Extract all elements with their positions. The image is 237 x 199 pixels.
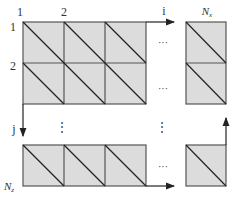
right-column-top-cells [186,22,226,104]
bottom-row-cell-block [23,145,146,186]
ellipsis-row-2: ··· [158,83,168,94]
last-column-label: Nx [201,5,213,19]
bottom-right-cell [186,145,226,186]
row-label-1: 1 [10,20,16,34]
vertical-ellipsis-left: ⋮ [56,120,68,134]
ellipsis-row-1: ··· [158,37,168,48]
column-label-2: 2 [61,5,67,19]
last-row-label: Nz [3,180,14,194]
mesh-grid-diagram: 1 2 1 2 i j Nx Nz ··· ··· ··· ⋮ ⋮ [0,0,237,199]
column-label-1: 1 [17,5,23,19]
vertical-ellipsis-right: ⋮ [156,120,168,134]
ellipsis-bottom-row: ··· [158,161,168,172]
row-label-2: 2 [10,59,16,73]
i-axis-label: i [162,4,166,18]
top-left-cell-block [23,22,146,104]
j-axis-label: j [11,122,15,136]
